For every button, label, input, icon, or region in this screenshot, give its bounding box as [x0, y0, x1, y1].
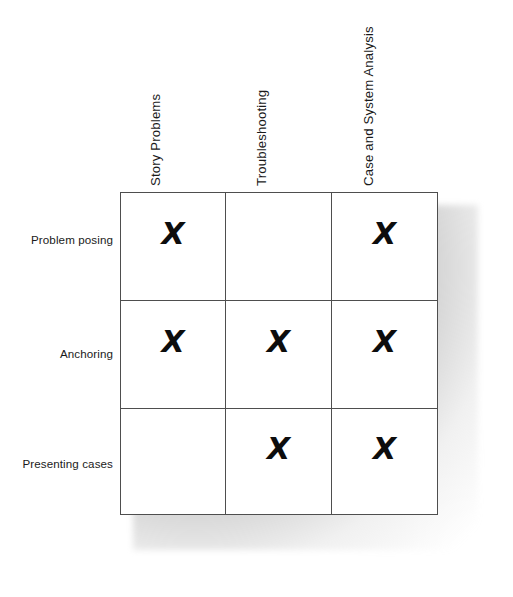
matrix-cell-anchoring-story-problems: X [121, 301, 226, 409]
matrix-cell-problem-posing-troubleshooting [226, 193, 332, 301]
matrix-cell-presenting-cases-case-and-system-analysis: X [332, 409, 437, 514]
matrix-cell-anchoring-troubleshooting: X [226, 301, 332, 409]
row-header-problem-posing: Problem posing [0, 233, 113, 247]
row-header-label: Anchoring [3, 347, 113, 361]
matrix-figure: Story Problems Troubleshooting Case and … [0, 0, 513, 597]
cell-mark-x: X [332, 434, 437, 464]
row-header-label: Presenting cases [3, 457, 113, 471]
column-header-label: Troubleshooting [254, 0, 270, 186]
matrix-grid: X X X X X X X [120, 192, 438, 515]
column-header-label: Case and System Analysis [361, 0, 377, 186]
cell-mark-x: X [332, 327, 437, 357]
cell-mark-x: X [226, 327, 331, 357]
column-header-case-and-system-analysis: Case and System Analysis [377, 0, 393, 186]
column-header-troubleshooting: Troubleshooting [270, 0, 286, 186]
matrix-cell-presenting-cases-troubleshooting: X [226, 409, 332, 514]
row-header-presenting-cases: Presenting cases [0, 457, 113, 471]
cell-mark-x: X [121, 327, 225, 357]
cell-mark-x: X [121, 219, 225, 249]
cell-mark-x: X [332, 219, 437, 249]
matrix-cell-problem-posing-story-problems: X [121, 193, 226, 301]
matrix-cell-problem-posing-case-and-system-analysis: X [332, 193, 437, 301]
row-header-label: Problem posing [3, 233, 113, 247]
column-header-story-problems: Story Problems [164, 0, 180, 186]
cell-mark-x: X [226, 434, 331, 464]
row-header-anchoring: Anchoring [0, 347, 113, 361]
column-header-label: Story Problems [148, 0, 164, 186]
matrix-cell-anchoring-case-and-system-analysis: X [332, 301, 437, 409]
matrix-cell-presenting-cases-story-problems [121, 409, 226, 514]
